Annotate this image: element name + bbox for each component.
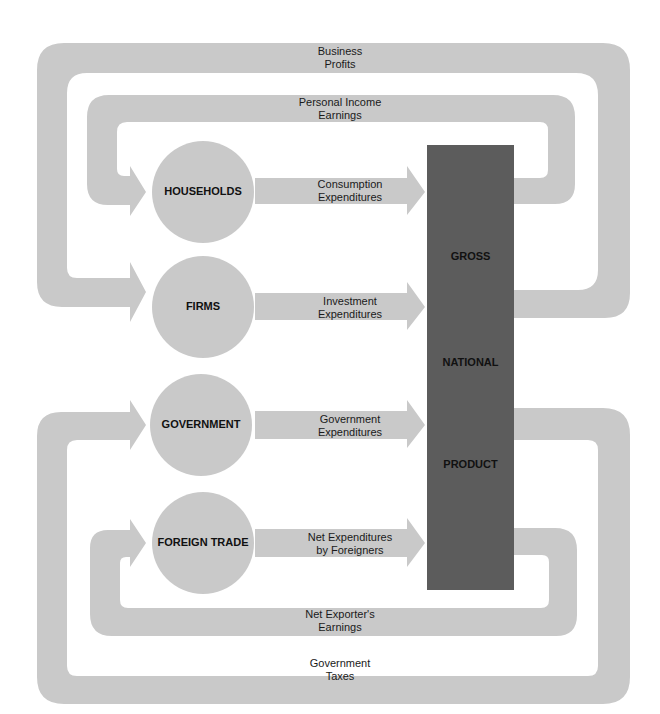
foreign-exp-label: Net Expendituresby Foreigners <box>290 531 410 557</box>
firms-label: FIRMS <box>153 300 253 312</box>
gnp-product: PRODUCT <box>427 458 514 470</box>
business-profits-label: BusinessProfits <box>280 45 400 71</box>
gnp-national: NATIONAL <box>427 356 514 368</box>
government-taxes-label: GovernmentTaxes <box>280 657 400 683</box>
foreign-trade-label: FOREIGN TRADE <box>153 536 253 548</box>
households-label: HOUSEHOLDS <box>153 185 253 197</box>
government-exp-label: GovernmentExpenditures <box>300 413 400 439</box>
gnp-gross: GROSS <box>427 250 514 262</box>
personal-income-label: Personal IncomeEarnings <box>280 96 400 122</box>
government-label: GOVERNMENT <box>151 418 251 430</box>
net-exporters-label: Net Exporter'sEarnings <box>280 608 400 634</box>
investment-label: InvestmentExpenditures <box>300 295 400 321</box>
consumption-label: ConsumptionExpenditures <box>300 178 400 204</box>
